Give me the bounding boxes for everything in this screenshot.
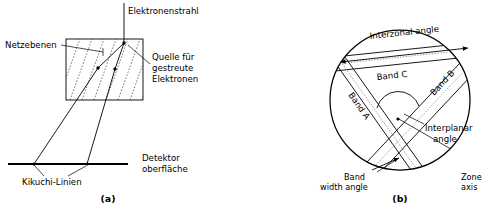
panel-a: Elektronenstrahl Netzebenen xyxy=(5,3,199,204)
kikuchi-leader-left xyxy=(34,165,44,176)
panel-b: Interzonal angle Band C Band A Band B In… xyxy=(320,24,486,204)
band-a-edge-right xyxy=(340,50,429,176)
panel-a-caption: (a) xyxy=(101,193,116,204)
detector-label-line2: oberfläche xyxy=(142,164,188,174)
band-a-label: Band A xyxy=(346,90,372,121)
interplanar-angle-arc xyxy=(377,91,419,108)
lattice-planes-leader xyxy=(61,45,103,52)
scatter-source-label-line3: Elektronen xyxy=(152,74,198,84)
interplanar-angle-label-line1: Interplanar xyxy=(425,123,473,133)
detector-label-line1: Detektor xyxy=(142,153,180,163)
lattice-planes-label: Netzebenen xyxy=(5,40,57,50)
band-c-label: Band C xyxy=(376,69,408,82)
scatter-source-label-line2: gestreute xyxy=(152,63,193,73)
lattice-planes-group xyxy=(58,39,164,100)
diffracted-ray-right xyxy=(87,69,115,164)
band-b-label: Band B xyxy=(428,68,456,97)
kikuchi-intersection-right xyxy=(86,163,89,166)
electron-beam-label: Elektronenstrahl xyxy=(128,6,199,16)
kikuchi-bands-group xyxy=(325,42,486,190)
zone-axis-point xyxy=(396,117,399,120)
interplanar-angle-label-line2: angle xyxy=(433,134,457,144)
band-width-label-line2: width angle xyxy=(320,182,368,192)
panel-b-caption: (b) xyxy=(392,193,407,204)
zone-axis-label-line2: axis xyxy=(461,182,477,192)
zone-axis-label-line1: Zone xyxy=(461,172,482,182)
kikuchi-leader-right xyxy=(68,166,86,176)
kikuchi-lines-label: Kikuchi-Linien xyxy=(22,177,82,187)
band-width-label-line1: Band xyxy=(344,172,365,182)
figure-root: Elektronenstrahl Netzebenen xyxy=(0,0,491,208)
scatter-source-label-line1: Quelle für xyxy=(152,52,195,62)
interzonal-angle-label: Interzonal angle xyxy=(369,24,439,41)
ebsd-figure-svg: Elektronenstrahl Netzebenen xyxy=(0,0,491,208)
scatter-source-leader xyxy=(128,45,150,64)
